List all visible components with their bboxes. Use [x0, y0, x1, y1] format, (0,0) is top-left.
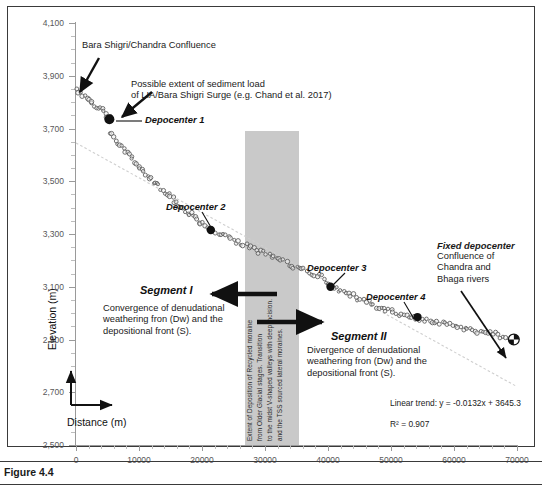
data-point	[130, 157, 133, 160]
figure-caption: Figure 4.4	[4, 466, 54, 478]
arrow-fixed-depocenter	[461, 291, 506, 358]
data-point	[171, 195, 175, 199]
x-tick-label: 50000	[361, 455, 421, 465]
figure-4-4: Extent of Deposition of Recycled moraine…	[0, 0, 542, 496]
trend-r2-text: R² = 0.907	[390, 419, 521, 430]
data-point	[89, 99, 94, 104]
data-point	[240, 243, 245, 248]
data-point	[281, 258, 284, 261]
x-tick-label: 30000	[235, 455, 295, 465]
data-point	[437, 322, 441, 326]
data-point	[394, 312, 397, 315]
trend-equation-text: Linear trend: y = -0.0132x + 3645.3	[390, 398, 521, 409]
annotation-segment-1-body: Convergence of denudational weathering f…	[103, 303, 224, 337]
annotation-fixed-depocenter-title: Fixed depocenter	[437, 240, 515, 251]
data-point	[149, 176, 153, 180]
data-point	[335, 286, 338, 289]
data-point	[236, 239, 241, 244]
x-axis-label: Distance (m)	[67, 416, 127, 428]
data-point	[156, 183, 159, 186]
data-point	[358, 297, 362, 301]
annotation-sediment-load: Possible extent of sediment load of LIA/…	[131, 79, 332, 102]
data-point	[195, 217, 199, 221]
depocenter-marker-4	[413, 313, 421, 321]
label-depocenter-3: Depocenter 3	[307, 262, 366, 273]
data-point	[262, 249, 265, 252]
axis-direction-indicator	[71, 371, 112, 405]
depocenter-marker-1	[104, 114, 114, 124]
label-segment-2-title: Segment II	[331, 330, 387, 342]
caption-rule-bottom	[0, 484, 542, 485]
data-point	[371, 303, 374, 306]
data-point	[228, 236, 233, 241]
label-depocenter-1: Depocenter 1	[145, 114, 204, 125]
arrow-confluence	[80, 58, 99, 92]
data-point	[323, 277, 327, 281]
data-point	[475, 331, 479, 335]
data-point	[386, 307, 389, 310]
x-tick-label: 10000	[109, 455, 169, 465]
data-point	[111, 135, 115, 139]
data-point	[141, 170, 145, 174]
data-point	[285, 259, 289, 263]
y-axis-label: Elevation (m)	[46, 336, 58, 350]
x-tick-label: 70000	[487, 455, 542, 465]
annotation-confluence: Bara Shigri/Chandra Confluence	[82, 40, 216, 51]
data-point	[271, 254, 275, 258]
data-point	[291, 266, 295, 270]
data-point	[465, 327, 468, 330]
annotation-fixed-depocenter-body: Confluence of Chandra and Bhaga rivers	[437, 251, 494, 285]
annotation-segment-2-body: Divergence of denudational weathering fr…	[307, 345, 427, 379]
data-point	[320, 273, 324, 277]
caption-rule-top	[0, 461, 542, 462]
data-point	[264, 253, 268, 257]
label-depocenter-2: Depocenter 2	[166, 201, 225, 212]
data-point	[223, 233, 227, 237]
x-tick-label: 60000	[424, 455, 484, 465]
data-point	[351, 292, 356, 297]
chart-area: Extent of Deposition of Recycled moraine…	[0, 0, 542, 455]
fixed-depocenter-marker	[508, 334, 519, 345]
x-tick-label: 40000	[298, 455, 358, 465]
data-point	[301, 266, 305, 270]
data-point	[496, 332, 500, 336]
label-segment-1-title: Segment I	[140, 284, 193, 296]
data-point	[339, 289, 342, 292]
data-point	[425, 317, 429, 321]
x-tick-label: 20000	[172, 455, 232, 465]
annotation-trend-equation: Linear trend: y = -0.0132x + 3645.3 R² =…	[390, 387, 521, 440]
label-depocenter-4: Depocenter 4	[366, 291, 425, 302]
data-point	[455, 325, 459, 329]
data-point	[120, 144, 123, 147]
x-tick-label: 0	[46, 455, 106, 465]
data-point	[268, 252, 271, 255]
